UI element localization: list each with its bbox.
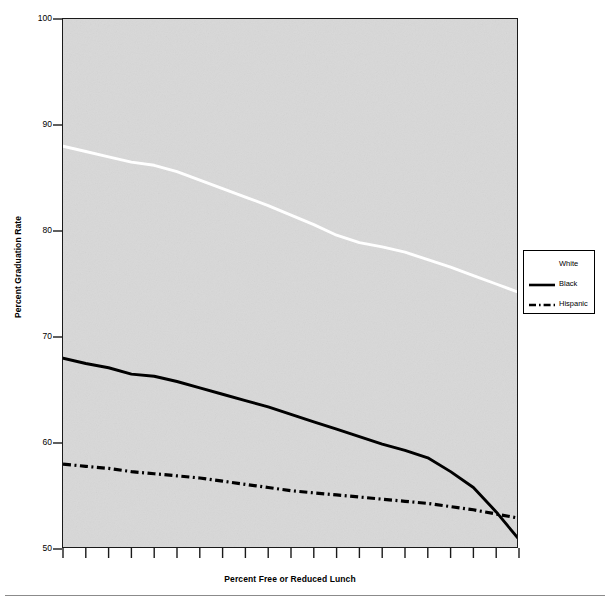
- chart-legend: White Black Hispanic: [523, 250, 595, 314]
- black-dashdot-line-swatch: [527, 297, 557, 309]
- legend-entry-hispanic: Hispanic: [524, 296, 594, 310]
- y-tick-label: 80: [26, 225, 52, 235]
- y-tick-label: 50: [26, 543, 52, 553]
- y-tick-label: 70: [26, 331, 52, 341]
- data-series-layer: [63, 19, 518, 548]
- legend-label-hispanic: Hispanic: [559, 299, 588, 308]
- footer-divider: [5, 595, 605, 596]
- legend-entry-black: Black: [524, 276, 594, 290]
- legend-label-black: Black: [559, 279, 577, 288]
- y-axis-ticks: [52, 18, 64, 550]
- series-line-black: [63, 358, 518, 539]
- legend-entry-white: White: [524, 256, 594, 270]
- white-line-swatch: [527, 257, 557, 269]
- y-axis-title: Percent Graduation Rate: [13, 207, 23, 327]
- y-tick-label: 100: [26, 13, 52, 23]
- series-line-white: [63, 146, 518, 292]
- black-solid-line-swatch: [527, 277, 557, 289]
- y-tick-label: 90: [26, 119, 52, 129]
- plot-area: [62, 18, 518, 548]
- x-axis-title: Percent Free or Reduced Lunch: [62, 574, 518, 584]
- x-axis-ticks: [62, 547, 520, 561]
- chart-figure: Percent Graduation Rate 5060708090100 Pe…: [0, 0, 610, 609]
- legend-label-white: White: [559, 259, 578, 268]
- y-tick-label: 60: [26, 437, 52, 447]
